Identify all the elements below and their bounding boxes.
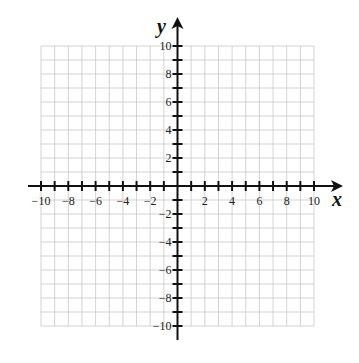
y-tick-label: 2: [166, 151, 172, 165]
y-tick-label: −10: [153, 319, 172, 333]
x-tick-label: −2: [144, 194, 157, 208]
y-tick-label: −2: [159, 207, 172, 221]
x-tick-label: −8: [62, 194, 75, 208]
y-axis-label: y: [155, 15, 166, 38]
y-tick-label: 6: [166, 95, 172, 109]
y-tick-label: 10: [160, 39, 172, 53]
axes: [28, 17, 343, 340]
y-tick-label: −8: [159, 291, 172, 305]
x-tick-label: −4: [117, 194, 130, 208]
y-tick-label: −4: [159, 235, 172, 249]
y-tick-label: −6: [159, 263, 172, 277]
x-tick-label: 4: [229, 194, 235, 208]
coordinate-plane: −10−8−6−4−2246810 108642−2−4−6−8−10 x y: [0, 0, 359, 363]
y-tick-label: 4: [166, 123, 172, 137]
x-tick-label: 8: [284, 194, 290, 208]
x-tick-label: 6: [256, 194, 262, 208]
x-tick-label: −10: [32, 194, 51, 208]
x-tick-label: −6: [89, 194, 102, 208]
x-tick-label: 10: [308, 194, 320, 208]
y-tick-label: 8: [166, 67, 172, 81]
x-tick-label: 2: [202, 194, 208, 208]
x-axis-label: x: [331, 188, 342, 210]
